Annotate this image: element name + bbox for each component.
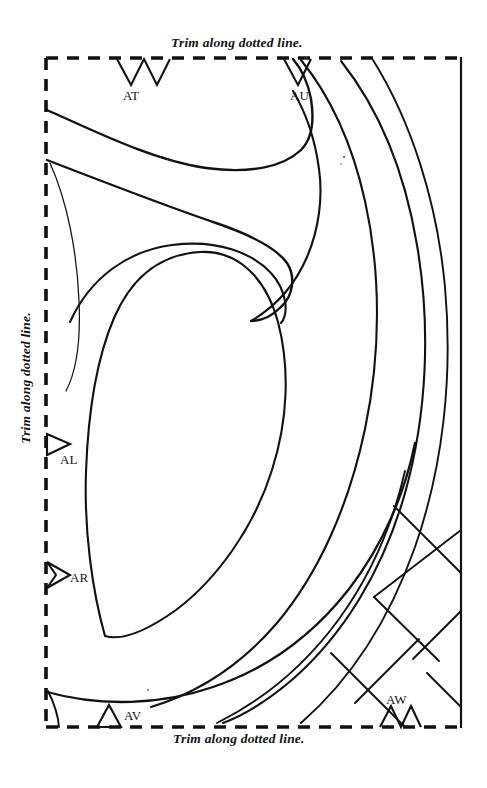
notch-label-AL: AL [60, 452, 77, 468]
speck-upper-2 [340, 163, 342, 165]
trim-instruction-top: Trim along dotted line. [171, 35, 303, 51]
speck-lower [147, 689, 149, 691]
notch-label-AU: AU [290, 88, 309, 104]
notch-label-AT: AT [123, 88, 139, 104]
notch-label-AR: AR [70, 570, 88, 586]
trim-instruction-left: Trim along dotted line. [18, 312, 34, 444]
notch-label-AW: AW [386, 692, 407, 708]
notch-label-AV: AV [124, 708, 141, 724]
sheet-background [0, 0, 487, 788]
pattern-drawing-canvas [0, 0, 487, 788]
pattern-sheet: Trim along dotted line. Trim along dotte… [0, 0, 487, 788]
speck-upper [343, 156, 345, 158]
trim-instruction-bottom: Trim along dotted line. [173, 731, 305, 747]
